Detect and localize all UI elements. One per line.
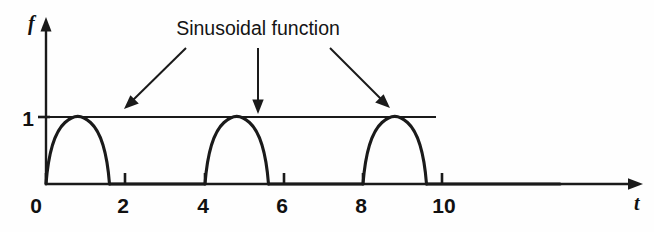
annotation-arrows [124,48,390,114]
x-tick-label-0: 0 [30,194,42,217]
sinusoidal-function-figure: Sinusoidal function f t 0 2 4 6 8 10 1 [0,0,654,232]
y-axis-arrowhead [41,17,52,32]
x-tick-label-6: 6 [276,194,288,217]
sine-hump-1 [46,116,110,184]
sine-hump-2 [205,116,269,184]
x-tick-marks [46,173,442,184]
y-axis-label: f [28,12,37,35]
annotation-arrow-middle-head [252,100,263,115]
annotation-arrow-left-line [131,48,186,102]
x-axis-label: t [634,192,641,214]
x-axis-arrowhead [628,178,643,190]
x-tick-label-8: 8 [355,194,367,217]
sine-hump-3 [363,116,427,184]
x-tick-label-2: 2 [117,194,129,217]
y-tick-label-1: 1 [22,107,34,130]
annotation-arrow-right-line [330,48,383,101]
curve-group [46,116,560,184]
figure-canvas: Sinusoidal function f t 0 2 4 6 8 10 1 [0,0,654,232]
annotation-label: Sinusoidal function [176,17,340,39]
x-tick-label-4: 4 [197,194,209,217]
x-tick-label-10: 10 [432,194,455,217]
